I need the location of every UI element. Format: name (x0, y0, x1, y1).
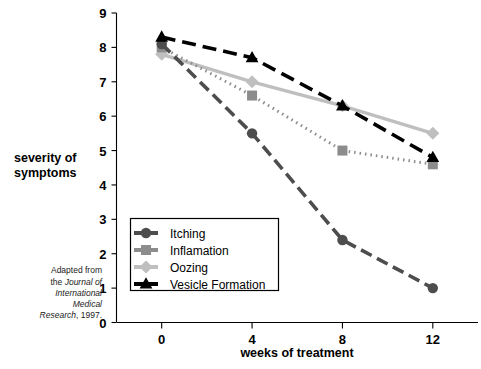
severity-of-symptoms-line-chart: 0123456789 04812 severity of symptoms we… (0, 0, 481, 369)
legend-label-itching: Itching (170, 227, 205, 241)
y-tick-label-9: 9 (99, 6, 106, 21)
legend-label-inflamation: Inflamation (170, 244, 229, 258)
y-tick-label-7: 7 (99, 75, 106, 90)
x-axis-tick-labels: 04812 (158, 332, 440, 347)
data-point-vesicle-formation-week-0 (155, 30, 168, 41)
legend-label-oozing: Oozing (170, 261, 208, 275)
source-line-4: Medical (73, 299, 103, 309)
y-axis-title: severity of symptoms (14, 151, 77, 180)
legend-item-oozing[interactable]: Oozing (134, 261, 208, 275)
legend-label-vesicle-formation: Vesicle Formation (170, 278, 265, 292)
source-line-1: Adapted from (51, 265, 102, 275)
y-axis-ticks (112, 13, 117, 323)
data-point-inflamation-week-4 (247, 91, 257, 101)
series-oozing (155, 48, 439, 140)
source-line-5: Research, 1997. (40, 310, 102, 320)
x-tick-label-4: 4 (248, 332, 256, 347)
source-line-3: International (55, 288, 103, 298)
source-attribution: Adapted from the Journal of Internationa… (40, 265, 104, 320)
y-tick-label-5: 5 (99, 144, 106, 159)
data-point-itching-week-8 (337, 235, 347, 245)
source-line-2: the Journal of (50, 277, 103, 287)
y-axis-title-line2: symptoms (14, 166, 77, 180)
source-line-5-plain: , 1997. (76, 310, 102, 320)
x-axis-ticks (162, 323, 433, 329)
data-point-itching-week-12 (428, 283, 438, 293)
source-line-2-plain: the (50, 277, 64, 287)
x-axis-title: weeks of treatment (239, 346, 354, 360)
legend-marker-itching (141, 228, 151, 238)
data-point-inflamation-week-8 (337, 146, 347, 156)
x-tick-label-12: 12 (426, 332, 440, 347)
series-line-vesicle-formation (162, 37, 433, 157)
source-line-2-italic: Journal of (64, 277, 104, 287)
y-axis-title-line1: severity of (14, 151, 77, 165)
chart-legend: ItchingInflamationOozingVesicle Formatio… (131, 219, 279, 292)
legend-marker-inflamation (141, 245, 151, 255)
chart-figure: 0123456789 04812 severity of symptoms we… (0, 0, 481, 369)
data-point-oozing-week-4 (246, 75, 259, 88)
x-tick-label-0: 0 (158, 332, 165, 347)
y-tick-label-4: 4 (99, 178, 107, 193)
series-inflamation (157, 42, 438, 169)
x-tick-label-8: 8 (339, 332, 346, 347)
data-point-itching-week-4 (247, 128, 257, 138)
y-tick-label-2: 2 (99, 247, 106, 262)
series-vesicle-formation (155, 30, 439, 162)
y-tick-label-8: 8 (99, 40, 106, 55)
data-point-oozing-week-12 (426, 127, 439, 140)
y-tick-label-3: 3 (99, 212, 106, 227)
y-tick-label-6: 6 (99, 109, 106, 124)
source-line-5-italic: Research (40, 310, 77, 320)
